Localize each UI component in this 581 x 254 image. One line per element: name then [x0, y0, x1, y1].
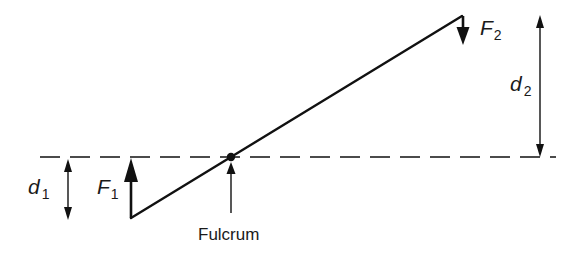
lever-diagram: d1 F1 F2 d2 Fulcrum — [0, 0, 581, 254]
distance-d1-arrow — [64, 159, 72, 220]
fulcrum-pivot-dot — [227, 153, 235, 161]
distance-d2-arrow — [536, 15, 544, 157]
f2-label: F2 — [480, 16, 502, 43]
fulcrum-arrow — [227, 162, 236, 213]
lever-beam — [131, 16, 462, 218]
d1-label: d1 — [28, 175, 50, 202]
f1-label: F1 — [97, 175, 119, 202]
force-f2-arrow — [457, 16, 470, 45]
d2-label: d2 — [510, 72, 532, 99]
fulcrum-label: Fulcrum — [198, 225, 259, 244]
force-f1-arrow — [124, 158, 138, 218]
